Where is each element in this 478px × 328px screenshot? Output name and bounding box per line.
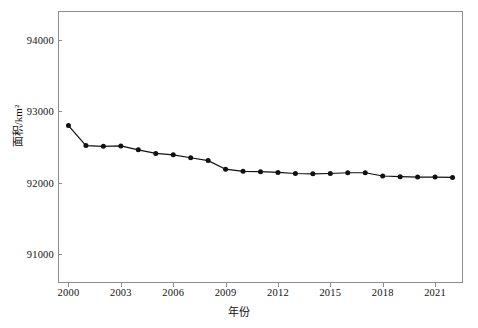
y-tick-mark bbox=[58, 111, 62, 112]
data-point bbox=[328, 171, 333, 176]
data-point bbox=[223, 167, 228, 172]
data-point bbox=[433, 175, 438, 180]
y-tick-mark bbox=[58, 183, 62, 184]
x-tick-mark bbox=[330, 283, 331, 287]
data-point bbox=[415, 175, 420, 180]
x-tick-label: 2018 bbox=[372, 287, 394, 298]
data-series-line bbox=[0, 0, 478, 328]
x-tick-mark bbox=[435, 283, 436, 287]
data-point bbox=[66, 123, 71, 128]
data-point bbox=[398, 174, 403, 179]
x-tick-label: 2003 bbox=[110, 287, 132, 298]
x-tick-mark bbox=[226, 283, 227, 287]
data-point bbox=[310, 171, 315, 176]
data-point bbox=[206, 158, 211, 163]
data-point bbox=[188, 155, 193, 160]
data-point bbox=[363, 170, 368, 175]
y-tick-mark bbox=[58, 254, 62, 255]
data-point bbox=[83, 143, 88, 148]
data-point bbox=[153, 151, 158, 156]
x-tick-mark bbox=[68, 283, 69, 287]
data-point bbox=[101, 144, 106, 149]
data-point bbox=[241, 169, 246, 174]
x-tick-label: 2009 bbox=[215, 287, 237, 298]
x-tick-label: 2015 bbox=[319, 287, 341, 298]
data-point bbox=[450, 175, 455, 180]
x-tick-label: 2000 bbox=[58, 287, 80, 298]
series-markers bbox=[66, 123, 455, 180]
y-tick-mark bbox=[58, 40, 62, 41]
x-tick-label: 2006 bbox=[162, 287, 184, 298]
x-tick-mark bbox=[121, 283, 122, 287]
data-point bbox=[293, 171, 298, 176]
x-tick-mark bbox=[278, 283, 279, 287]
data-point bbox=[345, 170, 350, 175]
data-point bbox=[171, 152, 176, 157]
data-point bbox=[275, 170, 280, 175]
data-point bbox=[258, 169, 263, 174]
data-point bbox=[136, 147, 141, 152]
x-tick-mark bbox=[383, 283, 384, 287]
chart-figure: 91000920009300094000 年份 面积/km² 200020032… bbox=[0, 0, 478, 328]
x-tick-label: 2021 bbox=[424, 287, 446, 298]
data-point bbox=[118, 143, 123, 148]
x-tick-mark bbox=[173, 283, 174, 287]
data-point bbox=[380, 173, 385, 178]
x-tick-label: 2012 bbox=[267, 287, 289, 298]
